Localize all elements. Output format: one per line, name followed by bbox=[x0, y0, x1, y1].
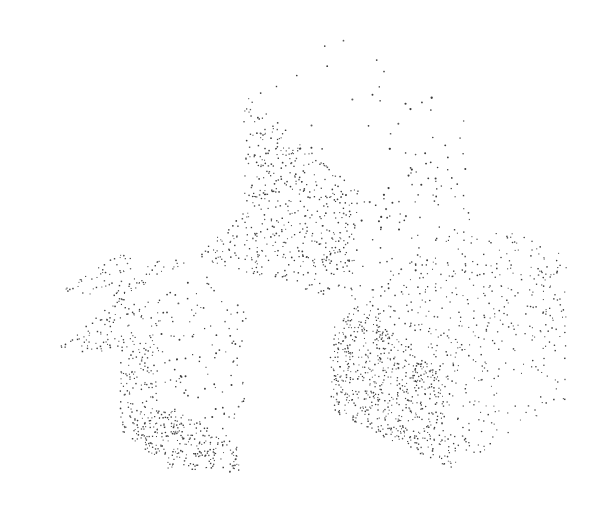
stipple-figure: Stippled point-density rendering of thre… bbox=[0, 0, 613, 510]
stipple-canvas bbox=[0, 0, 613, 510]
